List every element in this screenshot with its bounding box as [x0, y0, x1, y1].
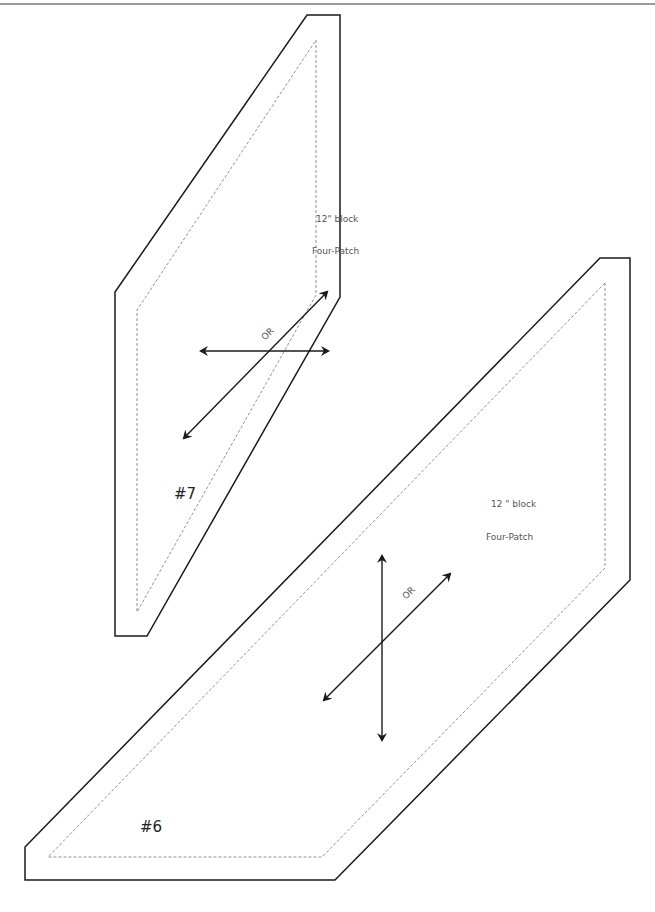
piece-6-size-text: 12 " block [491, 499, 536, 509]
piece-7-cut-line [115, 15, 340, 636]
piece-6-number-label: #6 [140, 818, 162, 836]
piece-6-seam-line [48, 283, 605, 857]
piece-6-grainline-diagonal [324, 574, 450, 700]
piece-7-grainline-diagonal [184, 292, 327, 438]
piece-7-pattern-name: Four-Patch [312, 246, 359, 256]
piece-6-pattern-name: Four-Patch [486, 532, 533, 542]
piece-7-template [115, 15, 340, 636]
piece-7-number-label: #7 [174, 485, 196, 503]
piece-7-seam-line [137, 40, 316, 612]
template-drawing [0, 0, 655, 912]
piece-7-size-text: 12" block [316, 214, 358, 224]
